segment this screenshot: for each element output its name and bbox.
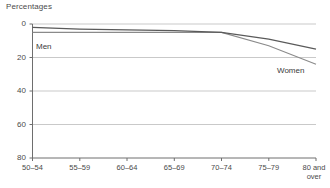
y-tick-label: 0 — [4, 19, 26, 28]
x-tick-label: 75–79 — [249, 163, 289, 172]
x-tick-label: 80 andover — [294, 163, 330, 181]
x-tick-label-line: 70–74 — [202, 163, 242, 172]
x-tick-label-line: 60–64 — [107, 163, 147, 172]
x-tick-label-line: 50–54 — [13, 163, 53, 172]
series-label-women: Women — [277, 66, 304, 75]
x-tick-label-line: over — [294, 172, 330, 181]
line-series-women — [33, 32, 317, 64]
x-tick-label: 65–69 — [154, 163, 194, 172]
y-tick-label: 80 — [4, 153, 26, 162]
y-tick-label: 20 — [4, 53, 26, 62]
series-label-men: Men — [36, 42, 52, 51]
y-tick-label: 40 — [4, 86, 26, 95]
line-series-men — [33, 27, 317, 49]
gridlines-group — [33, 24, 317, 125]
x-tick-label: 60–64 — [107, 163, 147, 172]
x-tick-label: 70–74 — [202, 163, 242, 172]
x-tick-label: 55–59 — [60, 163, 100, 172]
x-tick-label: 50–54 — [13, 163, 53, 172]
x-tick-label-line: 75–79 — [249, 163, 289, 172]
y-tick-label: 60 — [4, 120, 26, 129]
x-tick-label-line: 55–59 — [60, 163, 100, 172]
x-tick-label-line: 80 and — [294, 163, 330, 172]
x-tick-label-line: 65–69 — [154, 163, 194, 172]
